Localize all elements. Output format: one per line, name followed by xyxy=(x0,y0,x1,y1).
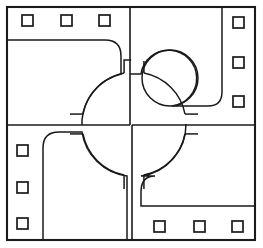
top-left-room-outline xyxy=(7,40,121,125)
marker-square xyxy=(233,96,244,107)
central-rotunda-arc-lower-left xyxy=(83,134,124,175)
marker-square xyxy=(61,15,72,26)
marker-square xyxy=(194,221,205,232)
marker-square xyxy=(17,218,28,229)
central-rotunda-arc-upper-left xyxy=(83,73,124,114)
central-rotunda-arc-lower-right xyxy=(144,134,185,175)
marker-square xyxy=(232,221,243,232)
floor-plan-drawing xyxy=(0,0,263,248)
outer-boundary-frame xyxy=(7,7,255,240)
top-marker-row xyxy=(22,15,110,26)
bottom-right-room-outline xyxy=(141,124,255,206)
marker-square xyxy=(99,15,110,26)
central-rotunda-arc-upper-right xyxy=(144,73,185,114)
marker-square xyxy=(22,15,33,26)
marker-square xyxy=(233,17,244,28)
top-right-room-outline xyxy=(130,7,222,106)
marker-square xyxy=(154,221,165,232)
marker-square xyxy=(17,182,28,193)
marker-square xyxy=(233,57,244,68)
right-marker-column xyxy=(233,17,244,107)
secondary-rotunda xyxy=(142,50,198,106)
left-marker-column xyxy=(17,145,28,229)
diagram-canvas xyxy=(0,0,263,248)
marker-square xyxy=(17,145,28,156)
bottom-left-room-outline xyxy=(43,132,127,240)
bottom-marker-row xyxy=(154,221,243,232)
